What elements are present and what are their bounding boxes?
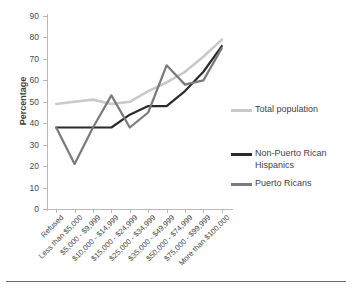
- y-axis-tick-label-wrap: 0: [15, 205, 39, 213]
- y-axis-tick-label: 70: [15, 55, 39, 63]
- x-axis-tick: [167, 209, 168, 213]
- series-line: [56, 40, 222, 104]
- y-axis-tick-label-wrap: 50: [15, 98, 39, 106]
- legend-item[interactable]: Puerto Ricans: [231, 178, 350, 190]
- legend-swatch-icon: [231, 109, 252, 112]
- x-axis-tick: [75, 209, 76, 213]
- y-axis-tick-label: 0: [15, 205, 39, 213]
- y-axis-tick-label-wrap: 30: [15, 141, 39, 149]
- y-axis-tick-label: 30: [15, 141, 39, 149]
- y-axis-tick-label-wrap: 90: [15, 12, 39, 20]
- y-axis-tick-label: 20: [15, 162, 39, 170]
- legend-label: Non-Puerto Rican Hispanics: [255, 148, 350, 171]
- chart-figure: Percentage 9080706050403020100 RefusedLe…: [0, 0, 352, 291]
- x-axis-tick: [148, 209, 149, 213]
- legend-label: Total population: [255, 104, 350, 116]
- y-axis-tick-label: 90: [15, 12, 39, 20]
- y-axis-tick-label-wrap: 80: [15, 33, 39, 41]
- y-axis-tick-label: 50: [15, 98, 39, 106]
- x-axis-tick: [56, 209, 57, 213]
- x-axis-tick: [93, 209, 94, 213]
- y-axis-tick-label-wrap: 20: [15, 162, 39, 170]
- x-axis-tick: [130, 209, 131, 213]
- y-axis-tick-label: 60: [15, 76, 39, 84]
- y-axis-tick-label-wrap: 40: [15, 119, 39, 127]
- legend-item[interactable]: Non-Puerto Rican Hispanics: [231, 148, 350, 171]
- series-line: [56, 46, 222, 127]
- x-axis-tick: [111, 209, 112, 213]
- y-axis-tick-label-wrap: 70: [15, 55, 39, 63]
- legend-label: Puerto Ricans: [255, 178, 350, 190]
- x-axis-tick: [222, 209, 223, 213]
- y-axis-tick-label: 80: [15, 33, 39, 41]
- legend-swatch-icon: [231, 153, 252, 156]
- y-axis-tick-label: 40: [15, 119, 39, 127]
- x-axis-tick: [185, 209, 186, 213]
- y-axis-tick: [43, 209, 47, 210]
- series-line: [56, 48, 222, 164]
- footer-rule: [6, 281, 346, 282]
- x-axis-tick: [203, 209, 204, 213]
- y-axis-tick-label-wrap: 60: [15, 76, 39, 84]
- y-axis-tick-label: 10: [15, 184, 39, 192]
- plot-area: [47, 16, 231, 209]
- legend-item[interactable]: Total population: [231, 104, 350, 116]
- y-axis-tick-label-wrap: 10: [15, 184, 39, 192]
- legend-swatch-icon: [231, 183, 252, 186]
